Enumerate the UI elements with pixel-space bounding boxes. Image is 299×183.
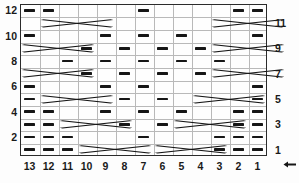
- cable-cross-symbol: [39, 93, 115, 106]
- purl-stitch-symbol: [233, 9, 245, 12]
- row-label-11: 11: [275, 18, 286, 29]
- purl-stitch-symbol: [119, 98, 131, 101]
- row-label-12: 12: [0, 5, 17, 16]
- purl-stitch-symbol: [24, 98, 36, 101]
- purl-stitch-symbol: [62, 60, 74, 63]
- purl-stitch-symbol: [252, 136, 264, 139]
- stitch-label-9: 9: [96, 161, 115, 172]
- purl-stitch-symbol: [43, 123, 55, 126]
- row-label-5: 5: [275, 94, 281, 105]
- cable-cross-symbol: [20, 42, 96, 55]
- purl-stitch-symbol: [100, 85, 112, 88]
- row-label-8: 8: [0, 56, 17, 67]
- row-label-1: 1: [275, 145, 281, 156]
- purl-stitch-symbol: [138, 110, 150, 113]
- purl-stitch-symbol: [43, 148, 55, 151]
- purl-stitch-symbol: [195, 47, 207, 50]
- purl-stitch-symbol: [195, 72, 207, 75]
- knitting-chart: 12108642119753113121110987654321: [0, 0, 299, 183]
- row-label-2: 2: [0, 132, 17, 143]
- purl-stitch-symbol: [176, 60, 188, 63]
- purl-stitch-symbol: [252, 110, 264, 113]
- row-label-7: 7: [275, 69, 281, 80]
- purl-stitch-symbol: [43, 110, 55, 113]
- purl-stitch-symbol: [62, 148, 74, 151]
- cable-cross-symbol: [58, 118, 134, 131]
- row-label-6: 6: [0, 81, 17, 92]
- stitch-label-1: 1: [248, 161, 267, 172]
- cable-cross-symbol: [191, 93, 267, 106]
- purl-stitch-symbol: [157, 72, 169, 75]
- row-label-3: 3: [275, 119, 281, 130]
- purl-stitch-symbol: [214, 136, 226, 139]
- purl-stitch-symbol: [62, 136, 74, 139]
- purl-stitch-symbol: [176, 34, 188, 37]
- purl-stitch-symbol: [157, 123, 169, 126]
- purl-stitch-symbol: [252, 123, 264, 126]
- purl-stitch-symbol: [138, 9, 150, 12]
- purl-stitch-symbol: [43, 9, 55, 12]
- purl-stitch-symbol: [100, 110, 112, 113]
- purl-stitch-symbol: [24, 123, 36, 126]
- purl-stitch-symbol: [119, 72, 131, 75]
- cable-cross-symbol: [39, 17, 115, 30]
- purl-stitch-symbol: [233, 110, 245, 113]
- purl-stitch-symbol: [138, 136, 150, 139]
- purl-stitch-symbol: [24, 34, 36, 37]
- row-label-4: 4: [0, 107, 17, 118]
- purl-stitch-symbol: [138, 60, 150, 63]
- cable-cross-symbol: [172, 118, 248, 131]
- purl-stitch-symbol: [157, 47, 169, 50]
- purl-stitch-symbol: [252, 148, 264, 151]
- purl-stitch-symbol: [138, 34, 150, 37]
- stitch-label-12: 12: [39, 161, 58, 172]
- stitch-symbol-layer: [20, 4, 267, 156]
- purl-stitch-symbol: [43, 136, 55, 139]
- purl-stitch-symbol: [100, 60, 112, 63]
- purl-stitch-symbol: [176, 110, 188, 113]
- row-label-10: 10: [0, 31, 17, 42]
- purl-stitch-symbol: [24, 110, 36, 113]
- cable-cross-symbol: [20, 67, 96, 80]
- purl-stitch-symbol: [233, 148, 245, 151]
- start-arrow-icon: [283, 160, 297, 169]
- purl-stitch-symbol: [252, 9, 264, 12]
- stitch-label-6: 6: [153, 161, 172, 172]
- purl-stitch-symbol: [252, 34, 264, 37]
- stitch-label-5: 5: [172, 161, 191, 172]
- stitch-label-13: 13: [20, 161, 39, 172]
- stitch-label-7: 7: [134, 161, 153, 172]
- stitch-label-8: 8: [115, 161, 134, 172]
- purl-stitch-symbol: [24, 148, 36, 151]
- stitch-label-10: 10: [77, 161, 96, 172]
- purl-stitch-symbol: [24, 85, 36, 88]
- purl-stitch-symbol: [24, 9, 36, 12]
- stitch-label-11: 11: [58, 161, 77, 172]
- purl-stitch-symbol: [157, 98, 169, 101]
- cable-cross-symbol: [77, 143, 153, 156]
- purl-stitch-symbol: [100, 34, 112, 37]
- purl-stitch-symbol: [138, 85, 150, 88]
- purl-stitch-symbol: [214, 60, 226, 63]
- stitch-label-4: 4: [191, 161, 210, 172]
- purl-stitch-symbol: [252, 85, 264, 88]
- stitch-label-3: 3: [210, 161, 229, 172]
- row-label-9: 9: [275, 43, 281, 54]
- cable-cross-symbol: [153, 143, 229, 156]
- purl-stitch-symbol: [233, 136, 245, 139]
- stitch-label-2: 2: [229, 161, 248, 172]
- purl-stitch-symbol: [119, 47, 131, 50]
- purl-stitch-symbol: [24, 136, 36, 139]
